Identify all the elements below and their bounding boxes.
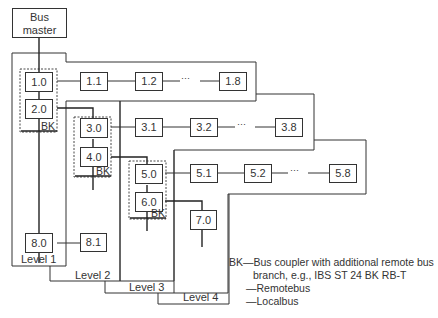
node-1-8: 1.8	[219, 72, 247, 91]
node-4-0: 4.0	[80, 147, 108, 167]
node-3-2: 3.2	[190, 118, 218, 137]
ellipsis-2: ···	[237, 119, 246, 129]
level-3-label: Level 3	[129, 281, 164, 293]
bus-master-label-1: Bus	[13, 11, 66, 24]
bk-label-3: BK	[151, 207, 165, 219]
node-1-1: 1.1	[80, 72, 108, 91]
legend-localbus: —Localbus	[229, 295, 434, 308]
level-2-label: Level 2	[75, 269, 110, 281]
node-1-0: 1.0	[25, 72, 53, 92]
level-1-label: Level 1	[21, 253, 56, 265]
node-8-1: 8.1	[80, 233, 107, 252]
bus-master-label-2: master	[13, 24, 66, 37]
node-3-1: 3.1	[135, 118, 163, 137]
level-4-label: Level 4	[183, 291, 218, 303]
legend: BK—Bus coupler with additional remote bu…	[229, 256, 434, 308]
node-7-0: 7.0	[190, 210, 217, 230]
bk-label-2: BK	[96, 165, 110, 177]
bus-master-box: Bus master	[12, 8, 67, 38]
legend-bk: BK—Bus coupler with additional remote bu…	[229, 256, 434, 269]
node-3-8: 3.8	[275, 118, 303, 137]
node-5-8: 5.8	[329, 164, 357, 183]
node-5-2: 5.2	[244, 164, 272, 183]
node-3-0: 3.0	[80, 118, 108, 138]
node-1-2: 1.2	[135, 72, 163, 91]
ellipsis-3: ···	[290, 165, 299, 175]
bk-label-1: BK	[41, 120, 55, 132]
ellipsis-1: ···	[181, 73, 190, 83]
legend-remotebus: —Remotebus	[229, 282, 434, 295]
node-5-0: 5.0	[135, 164, 163, 184]
legend-bk-cont: branch, e.g., IBS ST 24 BK RB-T	[229, 269, 434, 282]
node-2-0: 2.0	[25, 99, 53, 119]
node-5-1: 5.1	[190, 164, 218, 183]
node-8-0: 8.0	[25, 233, 53, 253]
